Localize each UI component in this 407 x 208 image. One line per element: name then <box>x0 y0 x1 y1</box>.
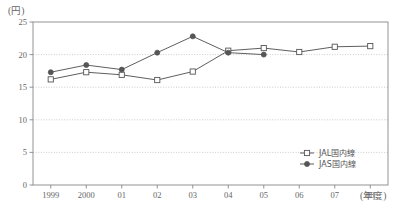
y-tick-label: 5 <box>23 147 27 157</box>
data-point-marker <box>155 77 160 82</box>
data-series <box>48 34 373 83</box>
data-point-marker <box>261 45 266 50</box>
x-tick-label: 07 <box>331 190 340 200</box>
x-tick-label: 03 <box>189 190 198 200</box>
data-point-marker <box>332 44 337 49</box>
y-tick-label: 25 <box>19 17 28 27</box>
data-point-marker <box>226 50 231 55</box>
x-tick-label: 04 <box>224 190 233 200</box>
data-point-marker <box>119 72 124 77</box>
x-tick-label: 2000 <box>78 190 95 200</box>
x-axis-ticks: 199920000102030405060708 <box>42 185 374 200</box>
data-point-marker <box>190 34 195 39</box>
legend-label: JAS国内線 <box>318 159 356 169</box>
data-point-marker <box>261 52 266 57</box>
data-point-marker <box>84 70 89 75</box>
data-point-marker <box>305 162 310 167</box>
data-point-marker <box>48 77 53 82</box>
data-point-marker <box>368 44 373 49</box>
x-tick-label: 06 <box>295 190 304 200</box>
x-tick-label: 05 <box>260 190 269 200</box>
x-tick-label: 08 <box>366 190 375 200</box>
data-point-marker <box>297 49 302 54</box>
data-point-marker <box>48 70 53 75</box>
line-chart: (円) (年度) 0510152025 19992000010203040506… <box>0 0 407 208</box>
y-tick-label: 20 <box>19 50 28 60</box>
data-point-marker <box>84 63 89 68</box>
data-point-marker <box>304 150 309 155</box>
chart-canvas: 0510152025 199920000102030405060708 JAL国… <box>0 0 407 208</box>
y-tick-label: 0 <box>23 180 27 190</box>
y-axis-ticks: 0510152025 <box>19 17 34 190</box>
legend-label: JAL国内線 <box>318 148 355 158</box>
x-tick-label: 02 <box>153 190 162 200</box>
data-point-marker <box>190 69 195 74</box>
x-tick-label: 1999 <box>42 190 59 200</box>
data-point-marker <box>119 67 124 72</box>
y-tick-label: 15 <box>19 82 28 92</box>
x-tick-label: 01 <box>118 190 127 200</box>
series-line <box>51 46 371 80</box>
chart-legend: JAL国内線JAS国内線 <box>300 148 356 169</box>
y-tick-label: 10 <box>19 115 28 125</box>
data-point-marker <box>155 50 160 55</box>
